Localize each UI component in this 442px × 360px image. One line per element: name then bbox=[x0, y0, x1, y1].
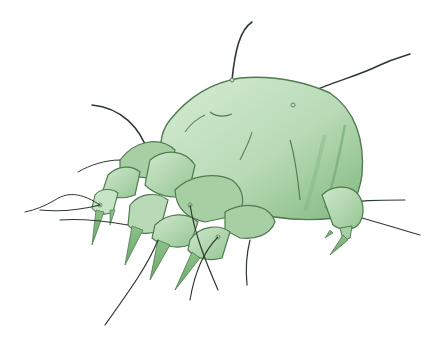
mite-rear-leg bbox=[322, 187, 363, 255]
mite-svg bbox=[0, 0, 442, 360]
dust-mite-illustration: Dust mite illustration bbox=[0, 0, 442, 360]
